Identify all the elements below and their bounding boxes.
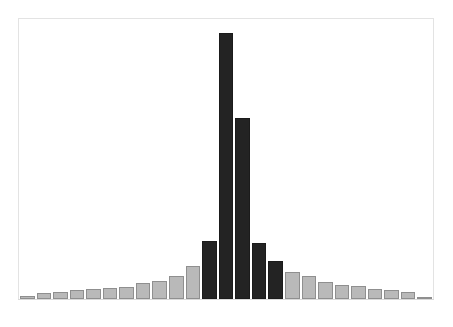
bar: [186, 266, 201, 299]
bar: [202, 241, 217, 299]
bar: [219, 33, 234, 299]
bar: [318, 282, 333, 299]
bar: [285, 272, 300, 299]
bar: [152, 281, 167, 299]
bar: [136, 283, 151, 299]
bar: [302, 276, 317, 299]
bar: [235, 118, 250, 299]
bar: [384, 290, 399, 299]
bar: [252, 243, 267, 299]
bar: [119, 287, 134, 299]
bar-series: [19, 19, 433, 299]
bar: [169, 276, 184, 299]
bar: [351, 286, 366, 299]
bar: [335, 285, 350, 299]
bar: [401, 292, 416, 299]
plot-area: [19, 19, 433, 299]
axis-baseline: [18, 299, 434, 300]
bar: [103, 288, 118, 299]
chart-figure: [0, 0, 453, 327]
bar: [53, 292, 68, 299]
bar: [70, 290, 85, 299]
bar: [268, 261, 283, 299]
bar: [368, 289, 383, 299]
bar: [86, 289, 101, 299]
